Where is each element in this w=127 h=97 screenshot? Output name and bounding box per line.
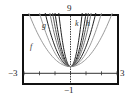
curve-label-h: h — [86, 20, 90, 28]
curve-label-f: f — [30, 43, 32, 51]
curve-label-k: k — [75, 20, 79, 28]
curve-label-g: g — [42, 22, 46, 30]
y-min-label: −1 — [64, 86, 74, 95]
plot-area — [0, 0, 127, 97]
y-max-label: 9 — [67, 4, 72, 13]
axes — [24, 16, 117, 83]
x-min-label: −3 — [8, 69, 18, 78]
x-max-label: 3 — [120, 69, 125, 78]
